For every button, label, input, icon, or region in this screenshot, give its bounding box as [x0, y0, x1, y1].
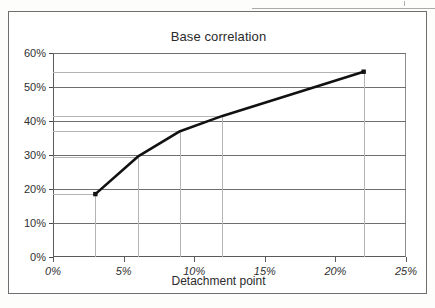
- y-axis-tick-label: 20%: [24, 183, 46, 195]
- scan-artifact-tick: [404, 1, 405, 6]
- plot-area: 0%10%20%30%40%50%60% 0%5%10%15%20%25%: [53, 53, 406, 257]
- series-endpoint-marker: [361, 70, 365, 74]
- x-axis-tick-mark: [335, 257, 336, 262]
- chart-frame: Base correlation 0%10%20%30%40%50%60% 0%…: [8, 11, 427, 294]
- y-axis-tick-label: 10%: [24, 217, 46, 229]
- x-axis-tick-mark: [124, 257, 125, 262]
- scanned-page: Base correlation 0%10%20%30%40%50%60% 0%…: [0, 0, 435, 308]
- y-axis-tick-label: 50%: [24, 81, 46, 93]
- scan-artifact-rule: [252, 8, 435, 9]
- x-axis-title: Detachment point: [9, 274, 428, 288]
- x-axis-tick-mark: [406, 257, 407, 262]
- y-axis-tick-label: 30%: [24, 149, 46, 161]
- y-axis-tick-label: 60%: [24, 47, 46, 59]
- series-markers: [93, 70, 366, 197]
- y-axis-tick-label: 0%: [30, 251, 46, 263]
- x-axis-tick-mark: [265, 257, 266, 262]
- series-endpoint-marker: [93, 192, 97, 196]
- x-axis-tick-mark: [194, 257, 195, 262]
- x-axis-tick-mark: [53, 257, 54, 262]
- series-line-chart: [53, 53, 406, 257]
- chart-title: Base correlation: [9, 29, 428, 44]
- series-polyline: [95, 72, 363, 194]
- y-axis-tick-label: 40%: [24, 115, 46, 127]
